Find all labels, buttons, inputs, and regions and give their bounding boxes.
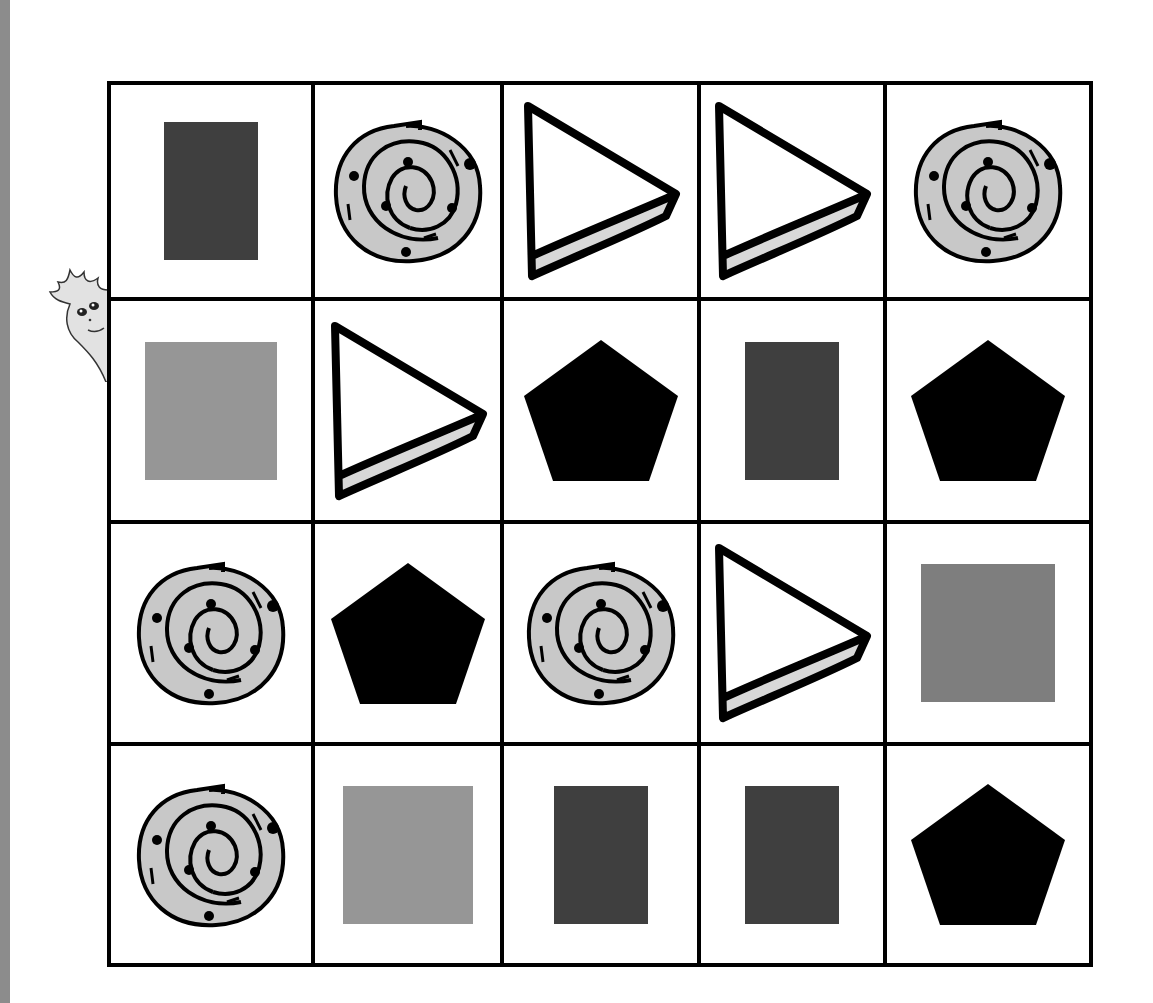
swirl-icon bbox=[908, 116, 1068, 266]
triangle-icon bbox=[516, 96, 686, 286]
triangle-icon bbox=[707, 96, 877, 286]
grid-cell bbox=[504, 746, 701, 963]
grid-cell bbox=[504, 85, 701, 301]
swirl-icon bbox=[131, 780, 291, 930]
light-rectangle-icon bbox=[343, 786, 473, 924]
light-square-icon bbox=[145, 342, 277, 480]
triangle-icon bbox=[707, 538, 877, 728]
grid-cell bbox=[504, 301, 701, 524]
pentagon-icon bbox=[328, 561, 488, 706]
swirl-icon bbox=[521, 558, 681, 708]
triangle-icon bbox=[323, 316, 493, 506]
swirl-icon bbox=[328, 116, 488, 266]
grid-cell bbox=[887, 85, 1089, 301]
grid-cell bbox=[315, 746, 504, 963]
grid-cell bbox=[887, 746, 1089, 963]
grid-cell bbox=[887, 524, 1089, 746]
grid-cell bbox=[111, 746, 315, 963]
grid-cell bbox=[315, 524, 504, 746]
pentagon-icon bbox=[908, 782, 1068, 927]
dark-rectangle-icon bbox=[164, 122, 258, 260]
grid-cell bbox=[887, 301, 1089, 524]
swirl-icon bbox=[131, 558, 291, 708]
grid-cell bbox=[701, 301, 887, 524]
dark-rectangle-icon bbox=[554, 786, 648, 924]
grid-cell bbox=[701, 746, 887, 963]
grid-cell bbox=[315, 301, 504, 524]
dark-rectangle-icon bbox=[745, 342, 839, 480]
grid-cell bbox=[701, 524, 887, 746]
grid-cell bbox=[111, 85, 315, 301]
mid-square-icon bbox=[921, 564, 1055, 702]
left-edge-bar bbox=[0, 0, 10, 1003]
grid-cell bbox=[504, 524, 701, 746]
grid-cell bbox=[111, 301, 315, 524]
mascot-character-icon bbox=[48, 262, 110, 382]
pentagon-icon bbox=[908, 338, 1068, 483]
grid-cell bbox=[111, 524, 315, 746]
grid-cell bbox=[315, 85, 504, 301]
pentagon-icon bbox=[521, 338, 681, 483]
dark-rectangle-icon bbox=[745, 786, 839, 924]
grid-cell bbox=[701, 85, 887, 301]
shape-grid bbox=[107, 81, 1093, 967]
